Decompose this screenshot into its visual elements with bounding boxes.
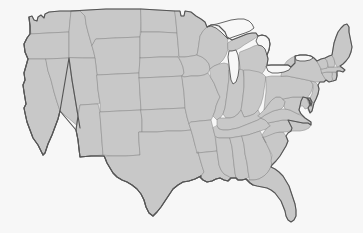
us-map-svg: [0, 0, 363, 233]
state-az[interactable]: [76, 104, 103, 157]
state-ok[interactable]: [141, 108, 191, 132]
state-sd[interactable]: [140, 32, 179, 58]
state-nm[interactable]: [100, 110, 142, 156]
state-ks[interactable]: [139, 76, 185, 110]
us-map-canvas: United States: [0, 0, 363, 233]
state-oh[interactable]: [241, 70, 266, 117]
state-wa[interactable]: [29, 11, 71, 34]
state-nd[interactable]: [141, 9, 177, 33]
state-ne[interactable]: [139, 57, 184, 78]
state-wy[interactable]: [92, 37, 140, 75]
state-or[interactable]: [24, 32, 69, 59]
state-co[interactable]: [97, 73, 141, 112]
